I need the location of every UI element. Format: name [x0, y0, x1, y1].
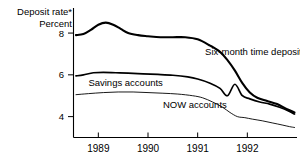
x-tick-label: 1991: [187, 143, 210, 154]
x-tick-label: 1989: [87, 143, 110, 154]
chart-title: Deposit rate*: [17, 6, 72, 17]
deposit-rate-chart: Deposit rate* Percent 864 19891990199119…: [0, 0, 300, 163]
y-tick-label: 6: [59, 69, 64, 80]
y-tick-label: 8: [59, 28, 64, 39]
x-tick-label: 1992: [236, 143, 259, 154]
y-tick-label: 4: [59, 111, 64, 122]
chart-canvas: Deposit rate* Percent 864 19891990199119…: [0, 0, 300, 163]
chart-subtitle: Percent: [39, 18, 72, 29]
series-label: NOW accounts: [163, 99, 227, 110]
series-label: Savings accounts: [88, 77, 163, 88]
series-label: Six-month time deposits: [205, 46, 300, 57]
x-tick-label: 1990: [137, 143, 160, 154]
